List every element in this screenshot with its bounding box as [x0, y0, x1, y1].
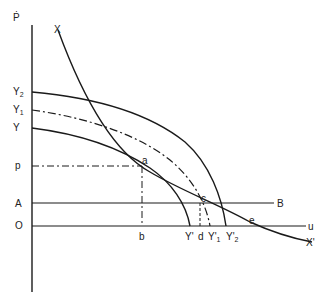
label-d: d: [198, 231, 204, 242]
label-y2-prime: Y'2: [226, 231, 239, 243]
curve-y1: [32, 110, 210, 226]
phillips-curve-diagram: Ṗ Y2 Y1 Y p A O X X' B a c e u b Y' d Y'…: [0, 0, 330, 293]
label-x-prime: X': [306, 237, 315, 248]
label-u: u: [308, 221, 314, 232]
label-y-prime: Y': [185, 231, 194, 242]
label-y2: Y2: [13, 86, 24, 98]
label-b-line: B: [277, 198, 284, 209]
label-point-c: c: [201, 193, 206, 204]
label-a: A: [15, 198, 22, 209]
label-y: Y: [13, 122, 20, 133]
label-x: X: [54, 24, 61, 35]
label-y1: Y1: [13, 104, 24, 116]
label-b: b: [139, 231, 145, 242]
label-point-e: e: [249, 215, 255, 226]
label-p-dot: Ṗ: [13, 11, 20, 23]
curve-y: [32, 128, 190, 226]
label-y1-prime: Y'1: [208, 231, 221, 243]
label-o: O: [15, 220, 23, 231]
label-point-a: a: [142, 155, 148, 166]
diagram-svg: Ṗ Y2 Y1 Y p A O X X' B a c e u b Y' d Y'…: [0, 0, 330, 293]
label-p: p: [15, 160, 21, 171]
curve-y2: [32, 92, 226, 226]
